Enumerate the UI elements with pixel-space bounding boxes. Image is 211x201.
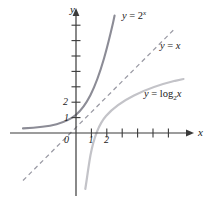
x-axis-label: x [198, 127, 203, 138]
y-tick-label-2: 2 [63, 97, 68, 107]
y-tick-label-1: 1 [64, 113, 69, 123]
exponential-curve-label: y = 2x [122, 11, 146, 22]
logarithm-curve-label: y = log2x [144, 89, 181, 100]
x-axis-arrowhead [186, 130, 194, 137]
logarithm-label-fn: log [160, 88, 173, 99]
logarithm-label-var: x [177, 88, 182, 99]
plot-area [0, 0, 211, 201]
x-tick-label-2: 2 [104, 135, 109, 145]
identity-curve-label: y = x [160, 41, 181, 52]
identity-line [23, 30, 174, 181]
origin-label: 0 [64, 135, 69, 145]
x-tick-label-1: 1 [89, 135, 94, 145]
identity-label-var: x [176, 40, 181, 51]
y-axis-label: y [70, 4, 75, 15]
exponential-label-exponent: x [143, 9, 146, 17]
graph-figure: y x 0 1 2 1 2 y = 2x y = x y = log2x [0, 0, 211, 201]
